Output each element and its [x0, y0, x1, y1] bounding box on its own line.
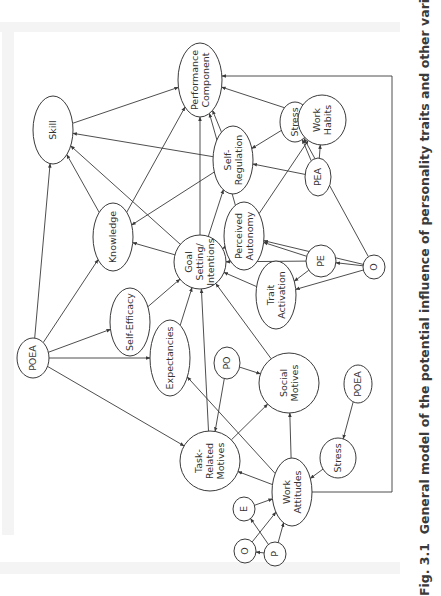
node-label: POEA	[27, 345, 38, 371]
node-label: PerceivedAutonomy	[232, 211, 254, 260]
node-label: WorkHabits	[310, 105, 332, 135]
node-label: Stress	[332, 443, 343, 472]
node-p: P	[264, 542, 286, 566]
node-skill: Skill	[33, 96, 73, 164]
edge-self-regulation-to-knowledge	[132, 172, 215, 225]
node-label-line: P	[269, 551, 280, 557]
node-self-regulation: Self-Regulation	[213, 126, 253, 194]
node-label: PerformanceComponent	[188, 50, 210, 110]
edge-poea-left-to-self-efficacy	[48, 329, 110, 352]
node-knowledge: Knowledge	[93, 203, 133, 271]
node-label-line: Motives	[215, 443, 226, 480]
node-label-line: Work	[280, 479, 291, 504]
node-o-lower: O	[234, 539, 256, 563]
edge-poea-right-to-stress-lower	[343, 402, 353, 439]
edge-po-to-task-motives	[215, 379, 224, 432]
node-label-line: Setting/	[194, 243, 205, 281]
node-label-line: PE	[315, 255, 326, 267]
edge-pe-to-trait-activation	[294, 270, 309, 281]
edge-self-efficacy-to-goal	[148, 279, 180, 307]
node-poea-right: POEA	[344, 365, 372, 403]
edge-perceived-autonomy-to-work-habits	[259, 141, 308, 214]
nodes-layer: PerformanceComponentSkillKnowledgeSelf-E…	[17, 43, 385, 566]
node-label-line: O	[239, 547, 250, 554]
node-goal: GoalSetting/Intentions	[174, 235, 226, 289]
edge-skill-to-performance	[73, 87, 179, 123]
node-label-line: Attitudes	[291, 470, 302, 513]
node-pe: PE	[306, 245, 336, 277]
edge-poea-left-to-knowledge	[43, 260, 98, 343]
node-label: POEA	[352, 371, 363, 397]
node-work-habits: WorkHabits	[298, 95, 346, 145]
node-label: PEA	[312, 167, 323, 186]
node-label-line: POEA	[352, 371, 363, 397]
node-label-line: Regulation	[232, 135, 243, 186]
node-label-line: Social	[277, 369, 288, 397]
node-label-line: Task-	[193, 449, 204, 474]
node-label: P	[269, 551, 280, 557]
node-stress-lower: Stress	[320, 438, 356, 478]
node-work-attitudes: WorkAttitudes	[272, 458, 312, 526]
node-label-line: PO	[221, 356, 232, 369]
node-label-line: Perceived	[232, 213, 243, 259]
node-label-line: Stress	[332, 443, 343, 472]
model-diagram: PerformanceComponentSkillKnowledgeSelf-E…	[0, 0, 441, 596]
node-label-line: Intentions	[205, 238, 216, 286]
node-label-line: Related	[204, 443, 215, 479]
node-social-motives: SocialMotives	[259, 353, 319, 413]
node-self-efficacy: Self-Efficacy	[110, 288, 150, 356]
node-label: SocialMotives	[277, 365, 299, 402]
node-perceived-autonomy: PerceivedAutonomy	[224, 202, 264, 270]
edge-self-regulation-to-skill	[73, 133, 213, 156]
edge-poea-left-to-skill	[35, 164, 50, 339]
node-label-line: Trait	[264, 284, 275, 306]
node-trait-activation: TraitActivation	[256, 261, 296, 329]
node-pea: PEA	[305, 158, 331, 196]
edge-goal-to-self-regulation	[208, 190, 223, 237]
edge-p-to-work-attitudes	[278, 523, 283, 543]
node-label-line: PEA	[312, 167, 323, 186]
node-label-line: Motives	[288, 365, 299, 402]
node-label: Expectancies	[164, 326, 175, 389]
top-scan-band	[0, 22, 400, 32]
node-label-line: Activation	[275, 271, 286, 319]
node-label: Skill	[47, 120, 58, 139]
node-label: PO	[221, 356, 232, 369]
edge-work-attitudes-to-task-motives	[238, 472, 272, 485]
bottom-scan-band	[0, 562, 400, 574]
edge-stress-upper-to-self-regulation	[252, 130, 282, 148]
edge-work-attitudes-to-social-motives	[290, 413, 291, 458]
edge-stress-lower-to-work-attitudes	[310, 469, 323, 478]
node-task-motives: Task-RelatedMotives	[180, 431, 240, 491]
edge-trait-activation-to-goal	[224, 272, 257, 286]
edge-task-motives-to-goal	[201, 289, 208, 431]
edge-task-motives-to-social-motives	[231, 404, 267, 440]
edge-pea-to-work-habits	[319, 145, 320, 158]
node-label-line: Expectancies	[164, 326, 175, 389]
node-label: O	[239, 547, 250, 554]
node-o-right: O	[363, 255, 385, 279]
node-performance: PerformanceComponent	[178, 43, 222, 117]
node-label-line: Skill	[47, 120, 58, 139]
node-label-line: Habits	[321, 105, 332, 135]
caption-line-1: Fig. 3.1 General model of the potential …	[412, 0, 438, 596]
node-label-line: POEA	[27, 345, 38, 371]
node-poea-left: POEA	[17, 338, 49, 378]
node-label-line: Self-Efficacy	[124, 293, 135, 351]
node-label-line: Goal	[183, 251, 194, 273]
node-label-line: Performance	[188, 50, 199, 110]
node-label: Self-Efficacy	[124, 293, 135, 351]
edge-goal-to-knowledge	[133, 243, 175, 255]
node-po: PO	[214, 347, 240, 379]
node-label-line: Self-	[221, 150, 232, 171]
figure-caption: Fig. 3.1 General model of the potential …	[412, 0, 438, 596]
edge-pea-to-self-regulation	[253, 164, 305, 174]
edge-e-to-work-attitudes	[255, 499, 273, 505]
edge-expectancies-to-goal	[180, 288, 192, 326]
node-label-line: E	[238, 506, 249, 512]
node-label-line: Work	[310, 107, 321, 132]
node-expectancies: Expectancies	[150, 320, 190, 396]
caption-text: General model of the potential influence…	[417, 0, 432, 534]
node-e: E	[233, 497, 255, 521]
node-label-line: Autonomy	[243, 211, 254, 260]
